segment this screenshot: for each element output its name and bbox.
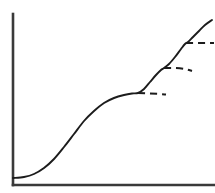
chart-figure — [0, 0, 215, 193]
chart-background — [0, 0, 215, 193]
chart-canvas — [0, 0, 215, 193]
